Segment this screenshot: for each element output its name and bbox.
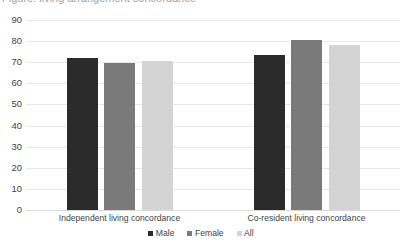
clipped-title-text: Figure: living arrangement concordance (2, 0, 196, 4)
y-tick-label-80: 80 (0, 36, 22, 46)
clipped-title: Figure: living arrangement concordance (0, 0, 402, 7)
legend-swatch-icon-male (148, 231, 153, 236)
y-tick-label-10: 10 (0, 184, 22, 194)
legend-item-female[interactable]: Female (187, 228, 223, 238)
y-tick-label-90: 90 (0, 15, 22, 25)
y-tick-label-30: 30 (0, 142, 22, 152)
y-tick-label-60: 60 (0, 78, 22, 88)
x-axis-label-0: Independent living concordance (27, 213, 213, 223)
bar-chart: Figure: living arrangement concordance 9… (0, 0, 402, 243)
legend-swatch-icon-all (237, 231, 242, 236)
legend-label-all: All (244, 228, 254, 238)
gridline-80 (26, 41, 400, 42)
bar-female-0 (104, 63, 135, 210)
legend-label-male: Male (156, 228, 175, 238)
y-tick-label-40: 40 (0, 121, 22, 131)
y-tick-label-50: 50 (0, 99, 22, 109)
bar-all-1 (329, 45, 360, 210)
y-tick-label-20: 20 (0, 163, 22, 173)
y-tick-label-0: 0 (0, 205, 22, 215)
bar-all-0 (142, 61, 173, 210)
bar-female-1 (291, 40, 322, 210)
legend-item-male[interactable]: Male (148, 228, 174, 238)
gridline-0 (26, 210, 400, 211)
legend-item-all[interactable]: All (237, 228, 254, 238)
bar-male-0 (67, 58, 98, 210)
x-axis-label-1: Co-resident living concordance (214, 213, 400, 223)
legend-label-female: Female (195, 228, 224, 238)
legend-swatch-icon-female (187, 231, 192, 236)
plot-area (26, 20, 400, 210)
bar-male-1 (254, 55, 285, 210)
y-tick-label-70: 70 (0, 57, 22, 67)
chart-legend: MaleFemaleAll (0, 228, 402, 238)
gridline-90 (26, 20, 400, 21)
